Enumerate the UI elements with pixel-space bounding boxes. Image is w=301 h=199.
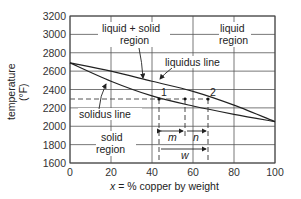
y-axis-unit-label: (°F) [17,83,29,101]
y-tick-label: 2800 [43,47,67,59]
solid-region-label-2: region [96,143,125,155]
y-tick-label: 2600 [43,65,67,77]
y-tick-label: 2000 [43,120,67,132]
x-tick-label: 80 [228,166,240,178]
x-tick-label: 20 [105,166,117,178]
liquidus-line-label: liquidus line [165,56,220,68]
solidus-pointer-arrow [99,84,106,109]
n-label: n [193,131,199,143]
solidus-line-label: solidus line [79,108,131,120]
liquid-solid-region-label-2: region [120,34,149,46]
liquid-region-label: liquid [220,22,245,34]
liquidus-pointer-arrow [160,68,172,79]
mid-point-marker [184,98,187,101]
x-tick-label: 100 [266,166,284,178]
x-tick-label: 0 [67,166,73,178]
liquid-region-label-2: region [219,34,248,46]
y-axis-ticks: 160018002000220024002600280030003200 [43,10,67,169]
liquid-solid-region-label: liquid + solid [102,22,160,34]
x-axis-ticks: 020406080100 [67,166,284,178]
point-2-label: 2 [210,86,216,98]
x-tick-label: 60 [187,166,199,178]
m-label: m [168,131,177,143]
solid-region-label: solid [101,131,123,143]
point-1-label: 1 [161,86,167,98]
y-tick-label: 2200 [43,102,67,114]
phase-diagram-chart: 160018002000220024002600280030003200 020… [0,0,301,199]
x-axis-label: x = % copper by weight [109,180,219,192]
w-label: w [181,149,190,161]
x-tick-label: 40 [146,166,158,178]
y-tick-label: 2400 [43,84,67,96]
y-axis-label: temperature [5,63,17,120]
y-tick-label: 3200 [43,10,67,22]
y-tick-label: 1600 [43,157,67,169]
y-tick-label: 3000 [43,28,67,40]
y-tick-label: 1800 [43,139,67,151]
